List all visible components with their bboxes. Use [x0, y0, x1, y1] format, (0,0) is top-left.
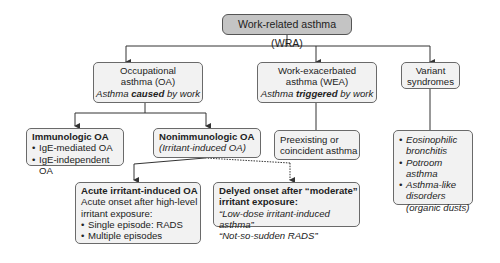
oa-line2: asthma (OA)	[94, 76, 202, 87]
oa-caption-emphasis: caused	[131, 88, 164, 99]
work-related-asthma-diagram: Work-related asthma (WRA) Occupational a…	[0, 0, 500, 263]
delayed-quote2: “Not-so-sudden RADS”	[219, 230, 359, 241]
wea-caption-pre: Asthma	[261, 88, 296, 99]
preexisting-line1: Preexisting or	[280, 134, 359, 145]
node-variant-syndromes: Variant syndromes	[401, 62, 460, 89]
immunologic-list: IgE-mediated OA IgE-independent OA	[32, 142, 123, 176]
acute-title: Acute irritant-induced OA	[81, 185, 200, 196]
delayed-quote1: “Low-dose irritant-induced asthma”	[219, 208, 359, 231]
variant-item: Eosinophilic bronchitis	[399, 134, 472, 157]
node-nonimmunologic-oa: Nonimmunologic OA (Irritant-induced OA)	[153, 128, 261, 158]
node-acute-irritant-induced-oa: Acute irritant-induced OA Acute onset af…	[75, 182, 201, 244]
acute-item: Single episode: RADS	[81, 219, 200, 230]
acute-desc2: irritant exposure:	[81, 208, 200, 219]
nonimmunologic-subtitle: (Irritant-induced OA)	[159, 142, 260, 153]
variant-item: Asthma-like disorders (organic dusts)	[399, 179, 472, 213]
variant-line2: syndromes	[402, 76, 459, 87]
node-work-exacerbated-asthma: Work-exacerbated asthma (WEA) Asthma tri…	[257, 62, 377, 103]
acute-desc1: Acute onset after high-level	[81, 196, 200, 207]
node-preexisting-asthma: Preexisting or coincident asthma	[274, 130, 360, 160]
oa-caption-pre: Asthma	[96, 88, 131, 99]
variant-list: Eosinophilic bronchitis Potroom asthma A…	[399, 134, 472, 213]
wea-line2: asthma (WEA)	[258, 76, 376, 87]
acute-item: Multiple episodes	[81, 230, 200, 241]
node-variant-list: Eosinophilic bronchitis Potroom asthma A…	[393, 130, 473, 205]
variant-item: Potroom asthma	[399, 157, 472, 180]
oa-caption: Asthma caused by work	[94, 88, 202, 99]
immunologic-item: IgE-mediated OA	[32, 142, 123, 153]
preexisting-line2: coincident asthma	[280, 145, 359, 156]
delayed-title1: Delyed onset after “moderate”	[219, 185, 359, 196]
wea-caption: Asthma triggered by work	[258, 88, 376, 99]
delayed-title2: irritant exposure:	[219, 196, 359, 207]
nonimmunologic-title: Nonimmunologic OA	[159, 131, 260, 142]
wea-line1: Work-exacerbated	[258, 65, 376, 76]
acute-list: Single episode: RADS Multiple episodes	[81, 219, 200, 242]
wea-caption-post: by work	[338, 88, 374, 99]
immunologic-item: IgE-independent OA	[32, 154, 123, 177]
oa-line1: Occupational	[94, 65, 202, 76]
wea-caption-emphasis: triggered	[296, 88, 338, 99]
node-delayed-onset: Delyed onset after “moderate” irritant e…	[213, 182, 360, 227]
node-occupational-asthma: Occupational asthma (OA) Asthma caused b…	[93, 62, 203, 103]
root-node-wra: Work-related asthma (WRA)	[222, 14, 352, 35]
oa-caption-post: by work	[164, 88, 200, 99]
variant-line1: Variant	[402, 65, 459, 76]
immunologic-title: Immunologic OA	[32, 131, 123, 142]
node-immunologic-oa: Immunologic OA IgE-mediated OA IgE-indep…	[26, 128, 124, 166]
